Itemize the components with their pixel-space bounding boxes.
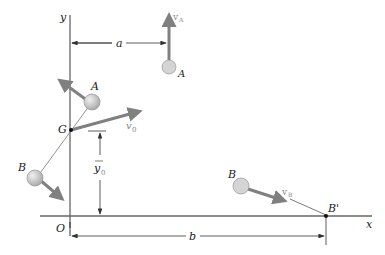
- va-label: v: [172, 12, 179, 22]
- vb-label: v: [281, 187, 288, 197]
- dimension-b: b: [70, 218, 326, 245]
- sphere-b-initial: [27, 170, 43, 186]
- v0-sub: 0: [132, 126, 136, 134]
- va-sub: A: [178, 16, 184, 23]
- dimension-y0: y 0: [88, 131, 106, 214]
- g-label: G: [58, 123, 67, 136]
- b-path-line: [290, 199, 326, 215]
- x-axis-label: x: [366, 218, 373, 231]
- y-axis-label: y: [59, 11, 67, 24]
- a-initial-label: A: [90, 80, 99, 93]
- origin-label: O: [56, 222, 65, 235]
- dimension-a: a: [72, 37, 166, 50]
- vb-arrow: [248, 189, 282, 200]
- sphere-a-initial: [84, 94, 100, 110]
- b-initial-velocity-arrow: [40, 180, 60, 197]
- dimension-y0-label: y: [93, 162, 101, 175]
- rod-ab: [38, 102, 92, 176]
- sphere-a-final: [162, 60, 176, 74]
- a-final-label: A: [177, 68, 185, 79]
- dimension-y0-sub: 0: [101, 169, 105, 177]
- a-initial-velocity-arrow: [62, 82, 88, 101]
- center-of-mass-g: [69, 128, 73, 132]
- b-moving-label: B: [227, 168, 236, 181]
- dimension-b-label: b: [189, 230, 196, 243]
- b-initial-label: B: [17, 161, 26, 174]
- momentum-diagram: y x O a b y 0 v 0 A B G A: [0, 0, 385, 255]
- axes: y x O: [40, 11, 373, 235]
- b-prime-label: B': [327, 202, 339, 215]
- dimension-a-label: a: [116, 37, 123, 50]
- vb-sub: B: [288, 191, 293, 198]
